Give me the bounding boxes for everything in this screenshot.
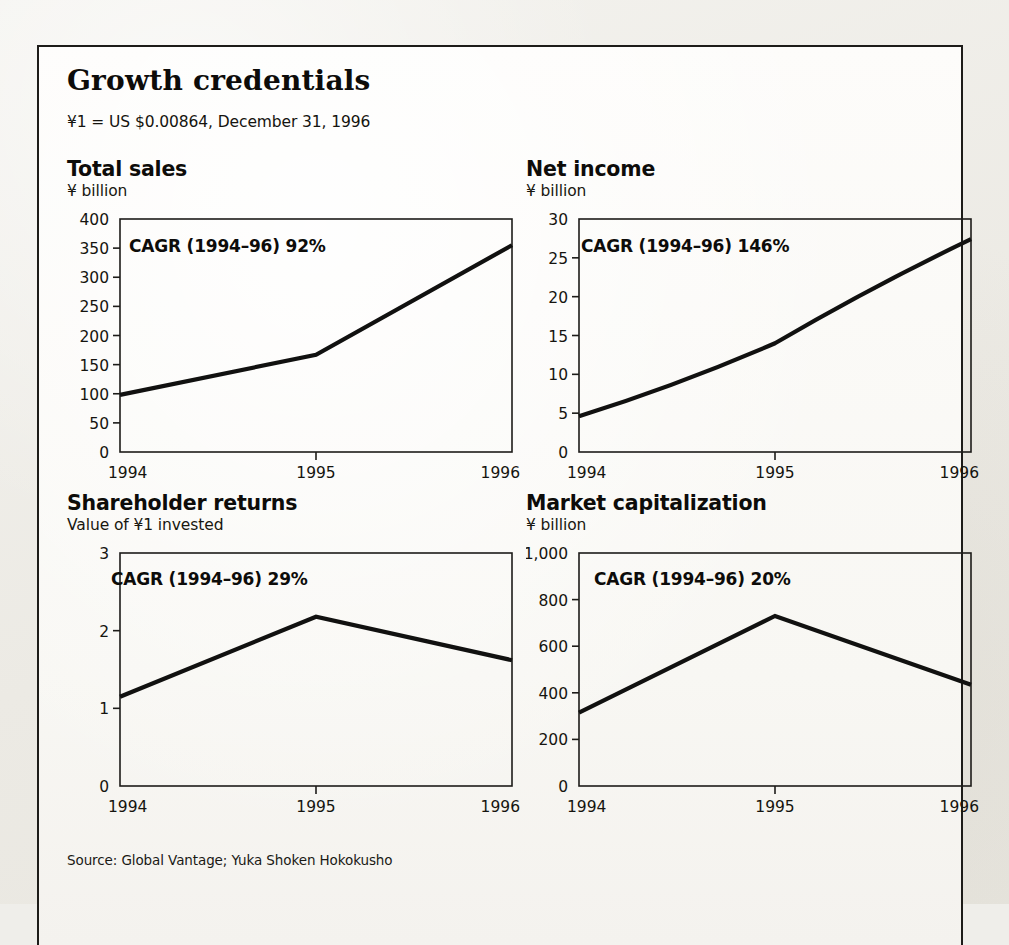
svg-text:2: 2 <box>99 622 109 640</box>
chart-annotation-net-income: CAGR (1994–96) 146% <box>581 236 789 256</box>
plot-area-total-sales: 050100150200250300350400199419951996 CAG… <box>67 209 522 497</box>
svg-text:1994: 1994 <box>567 464 606 482</box>
svg-text:15: 15 <box>548 327 568 345</box>
chart-annotation-shareholder-returns: CAGR (1994–96) 29% <box>111 569 308 589</box>
svg-text:250: 250 <box>79 298 109 316</box>
page-title: Growth credentials <box>67 64 371 97</box>
svg-text:1994: 1994 <box>108 798 147 816</box>
svg-text:30: 30 <box>548 211 568 229</box>
svg-text:100: 100 <box>79 385 109 403</box>
svg-text:150: 150 <box>79 356 109 374</box>
exchange-rate-note: ¥1 = US $0.00864, December 31, 1996 <box>67 113 370 131</box>
svg-text:50: 50 <box>89 414 109 432</box>
svg-text:350: 350 <box>79 240 109 258</box>
svg-text:10: 10 <box>548 366 568 384</box>
svg-text:1994: 1994 <box>108 464 147 482</box>
chart-title-shareholder-returns: Shareholder returns <box>67 493 522 515</box>
svg-text:1,000: 1,000 <box>526 545 568 563</box>
svg-text:1995: 1995 <box>296 798 335 816</box>
svg-text:0: 0 <box>558 778 568 796</box>
svg-text:1996: 1996 <box>940 464 979 482</box>
plot-area-shareholder-returns: 0123199419951996 CAGR (1994–96) 29% <box>67 543 522 831</box>
svg-text:800: 800 <box>538 591 568 609</box>
chart-unit-total-sales: ¥ billion <box>67 183 522 200</box>
svg-text:1995: 1995 <box>755 798 794 816</box>
svg-text:1994: 1994 <box>567 798 606 816</box>
svg-text:200: 200 <box>79 327 109 345</box>
chart-panel-net-income: Net income ¥ billion 0510152025301994199… <box>526 159 981 497</box>
chart-unit-market-capitalization: ¥ billion <box>526 517 981 534</box>
svg-text:25: 25 <box>548 249 568 267</box>
chart-annotation-total-sales: CAGR (1994–96) 92% <box>129 236 326 256</box>
svg-text:400: 400 <box>79 211 109 229</box>
svg-text:0: 0 <box>99 778 109 796</box>
svg-text:300: 300 <box>79 269 109 287</box>
svg-text:0: 0 <box>558 444 568 462</box>
svg-text:3: 3 <box>99 545 109 563</box>
svg-text:20: 20 <box>548 288 568 306</box>
svg-text:1996: 1996 <box>940 798 979 816</box>
chart-annotation-market-capitalization: CAGR (1994–96) 20% <box>594 569 791 589</box>
source-note: Source: Global Vantage; Yuka Shoken Hoko… <box>67 852 392 868</box>
exhibit-frame: Growth credentials ¥1 = US $0.00864, Dec… <box>37 45 963 945</box>
chart-unit-shareholder-returns: Value of ¥1 invested <box>67 517 522 534</box>
svg-text:1996: 1996 <box>481 464 520 482</box>
plot-area-net-income: 051015202530199419951996 CAGR (1994–96) … <box>526 209 981 497</box>
svg-text:1: 1 <box>99 700 109 718</box>
svg-text:1996: 1996 <box>481 798 520 816</box>
svg-text:1995: 1995 <box>296 464 335 482</box>
chart-title-market-capitalization: Market capitalization <box>526 493 981 515</box>
svg-text:400: 400 <box>538 684 568 702</box>
svg-text:1995: 1995 <box>755 464 794 482</box>
chart-unit-net-income: ¥ billion <box>526 183 981 200</box>
svg-text:200: 200 <box>538 731 568 749</box>
svg-text:0: 0 <box>99 444 109 462</box>
svg-text:5: 5 <box>558 405 568 423</box>
chart-title-total-sales: Total sales <box>67 159 522 181</box>
chart-panel-market-capitalization: Market capitalization ¥ billion 02004006… <box>526 493 981 831</box>
chart-panel-total-sales: Total sales ¥ billion 050100150200250300… <box>67 159 522 497</box>
chart-panel-shareholder-returns: Shareholder returns Value of ¥1 invested… <box>67 493 522 831</box>
svg-text:600: 600 <box>538 638 568 656</box>
chart-title-net-income: Net income <box>526 159 981 181</box>
plot-area-market-capitalization: 02004006008001,000199419951996 CAGR (199… <box>526 543 981 831</box>
